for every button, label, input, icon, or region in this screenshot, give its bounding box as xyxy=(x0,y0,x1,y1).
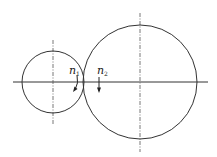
gear2-rotation-arrow-icon xyxy=(97,77,101,93)
gear1-speed-label: n1 xyxy=(69,64,80,77)
gear-diagram: n1 n2 xyxy=(0,0,217,157)
gear2-speed-label: n2 xyxy=(97,64,108,77)
gear1-rotation-arrow-icon xyxy=(73,75,78,92)
